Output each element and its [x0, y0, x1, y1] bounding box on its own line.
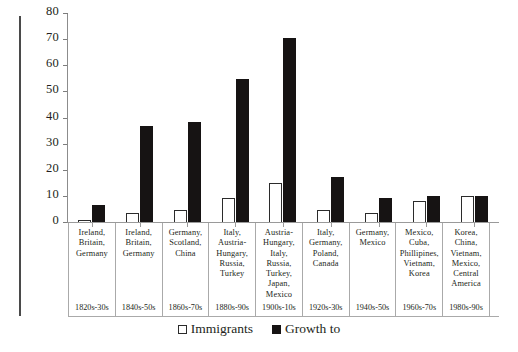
- bar-group-bars: [402, 14, 450, 223]
- bar-group: [164, 14, 212, 223]
- y-axis-tick-label: 20: [46, 162, 59, 174]
- category-cell: Italy, Austria- Hungary, Russia, Turkey1…: [208, 223, 256, 316]
- category-cell: Ireland, Britain, Germany1820s-30s: [68, 223, 116, 316]
- category-decade-label: 1960s-70s: [396, 303, 442, 312]
- category-origin-countries: Austria- Hungary, Italy, Russia, Turkey,…: [256, 228, 302, 300]
- y-axis-tick-label: 0: [53, 214, 59, 226]
- bar-group-bars: [116, 14, 164, 223]
- category-origin-countries: Ireland, Britain, Germany: [74, 228, 110, 259]
- category-origin-countries: Mexico, Cuba, Phillipines, Vietnam, Kore…: [398, 228, 441, 279]
- category-cell: Italy, Germany, Poland, Canada1920s-30s: [302, 223, 350, 316]
- bar-growth-to: [283, 38, 296, 223]
- bar-group: [402, 14, 450, 223]
- bar-growth-to: [188, 122, 201, 223]
- bar-group: [68, 14, 116, 223]
- bar-group: [259, 14, 307, 223]
- bar-group-bars: [211, 14, 259, 223]
- legend-item-immigrants: Immigrants: [178, 322, 253, 336]
- y-axis-tick-label: 80: [46, 5, 59, 17]
- chart-legend: ImmigrantsGrowth to: [0, 322, 518, 336]
- bar-immigrants: [222, 198, 235, 223]
- y-axis-tick-label: 30: [46, 136, 59, 148]
- category-decade-label: 1860s-70s: [163, 303, 209, 312]
- category-origin-countries: Italy, Austria- Hungary, Russia, Turkey: [214, 228, 250, 279]
- category-decade-label: 1840s-50s: [116, 303, 162, 312]
- y-axis-tick-label: 40: [46, 110, 59, 122]
- category-cell: Mexico, Cuba, Phillipines, Vietnam, Kore…: [395, 223, 443, 316]
- bar-immigrants: [269, 183, 282, 223]
- category-origin-countries: Korea, China, Vietnam, Mexico, Central A…: [448, 228, 483, 290]
- category-cell: Germany, Mexico1940s-50s: [349, 223, 397, 316]
- bar-group: [116, 14, 164, 223]
- category-cell: Austria- Hungary, Italy, Russia, Turkey,…: [255, 223, 303, 316]
- bar-growth-to: [379, 198, 392, 223]
- bar-group-bars: [164, 14, 212, 223]
- bar-group-bars: [68, 14, 116, 223]
- bar-immigrants: [413, 201, 426, 223]
- category-decade-label: 1880s-90s: [209, 303, 255, 312]
- bar-group-bars: [259, 14, 307, 223]
- legend-label: Growth to: [285, 322, 340, 336]
- y-axis-tick-label: 10: [46, 188, 59, 200]
- category-origin-countries: Germany, Mexico: [354, 228, 392, 249]
- bar-group: [450, 14, 498, 223]
- category-decade-label: 1900s-10s: [256, 303, 302, 312]
- y-axis-tick-label: 60: [46, 57, 59, 69]
- filled-square-icon: [272, 325, 281, 334]
- legend-label: Immigrants: [191, 322, 253, 336]
- bar-immigrants: [461, 196, 474, 223]
- category-origin-countries: Germany, Scotland, China: [167, 228, 205, 259]
- bar-group-bars: [450, 14, 498, 223]
- y-axis-tick-label: 70: [46, 31, 59, 43]
- bar-growth-to: [331, 177, 344, 223]
- category-table: Ireland, Britain, Germany1820s-30sIrelan…: [68, 223, 499, 316]
- bar-group-bars: [307, 14, 355, 223]
- bar-group-bars: [355, 14, 403, 223]
- bar-growth-to: [427, 196, 440, 223]
- figure-left-rule: [19, 16, 21, 316]
- category-decade-label: 1980s-90s: [443, 303, 489, 312]
- category-origin-countries: Italy, Germany, Poland, Canada: [307, 228, 345, 269]
- category-cell: Korea, China, Vietnam, Mexico, Central A…: [442, 223, 490, 316]
- category-decade-label: 1920s-30s: [303, 303, 349, 312]
- y-axis-tick-labels: 80706050403020100: [22, 14, 68, 226]
- bar-growth-to: [140, 126, 153, 223]
- category-decade-label: 1940s-50s: [350, 303, 396, 312]
- bar-group: [355, 14, 403, 223]
- bar-group: [307, 14, 355, 223]
- chart-figure: 80706050403020100 Ireland, Britain, Germ…: [0, 0, 518, 352]
- category-cell: Germany, Scotland, China1860s-70s: [162, 223, 210, 316]
- bar-growth-to: [475, 196, 488, 223]
- bar-growth-to: [236, 79, 249, 223]
- legend-item-growth-to: Growth to: [272, 322, 340, 336]
- open-square-icon: [178, 325, 187, 334]
- plot-area: [68, 14, 498, 223]
- bar-group: [211, 14, 259, 223]
- category-table-bottom-border: [68, 316, 499, 317]
- category-decade-label: 1820s-30s: [69, 303, 115, 312]
- category-cell: Ireland, Britain, Germany1840s-50s: [115, 223, 163, 316]
- category-origin-countries: Ireland, Britain, Germany: [121, 228, 157, 259]
- bar-growth-to: [92, 205, 105, 223]
- y-axis-tick-label: 50: [46, 83, 59, 95]
